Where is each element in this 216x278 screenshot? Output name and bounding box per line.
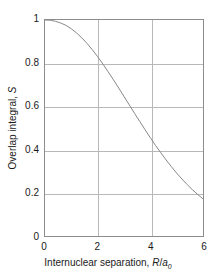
data-curve-container [45,20,203,236]
y-axis-title-variable: S [7,87,18,94]
x-tick-label: 2 [85,241,109,253]
x-axis-title: Internuclear separation, R/a0 [0,256,216,273]
y-tick-label: 0.4 [13,144,39,156]
overlap-integral-curve [45,20,203,199]
x-tick-label: 4 [139,241,163,253]
x-axis-title-subscript: 0 [168,263,172,270]
chart-figure: Overlap integral, S 0 0.2 0.4 0.6 0.8 1 … [0,0,216,278]
y-tick-label: 0.2 [13,187,39,199]
y-axis-title-container: Overlap integral, S [4,19,20,237]
x-tick-label: 6 [192,241,216,253]
x-tick-label: 0 [32,241,56,253]
plot-area [44,19,204,237]
x-axis-title-text: Internuclear separation, [44,257,152,268]
y-tick-label: 0.8 [13,57,39,69]
y-axis-title: Overlap integral, S [7,87,18,170]
y-tick-label: 1 [13,13,39,25]
y-tick-label: 0.6 [13,100,39,112]
